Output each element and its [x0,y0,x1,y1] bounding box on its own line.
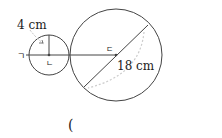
large-center-dot [115,54,118,57]
small-radius-label: 4 cm [17,18,47,32]
radius-pointer-arc [30,30,44,44]
large-center-label: ㄷ [106,45,113,54]
point-left-label: ㄱ [17,51,25,61]
small-center-label: ㄴ [46,59,53,68]
large-diameter-label: 18 cm [117,59,155,73]
circles-diagram: 4 cm 18 cm ㄱ ㄴ ㄷ ( [0,0,222,138]
small-center-dot [48,54,51,57]
answer-blank[interactable]: ( [68,117,73,133]
